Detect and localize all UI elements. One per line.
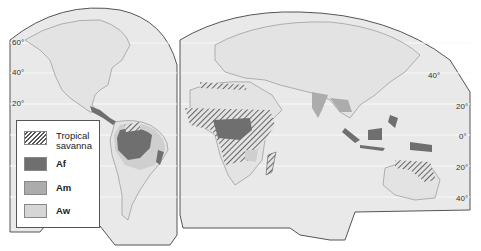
lat-label-60n: 60° — [12, 38, 24, 47]
legend-item-af: Af — [24, 157, 66, 171]
legend: Tropical savanna Af Am Aw — [16, 120, 100, 228]
legend-item-aw: Aw — [24, 204, 70, 218]
legend-item-am: Am — [24, 181, 71, 195]
lat-label-40n: 40° — [12, 68, 24, 77]
am-swatch — [24, 181, 47, 195]
legend-label-af: Af — [56, 159, 66, 169]
lat-label-right-20s: 20° — [456, 163, 468, 172]
savanna-swatch — [24, 131, 47, 145]
lat-label-right-0: 0° — [459, 132, 467, 141]
legend-item-savanna: Tropical savanna — [24, 131, 92, 151]
africa-aw — [245, 150, 258, 162]
lat-label-right-20n: 20° — [456, 102, 468, 111]
legend-label-am: Am — [56, 183, 71, 193]
aw-swatch — [24, 204, 47, 218]
lat-label-right-40s: 40° — [456, 194, 468, 203]
af-swatch — [24, 157, 47, 171]
borneo-af — [368, 128, 382, 140]
legend-label-savanna-2: savanna — [56, 141, 92, 151]
lat-label-20n: 20° — [12, 99, 24, 108]
lat-label-right-40n: 40° — [428, 71, 440, 80]
legend-label-aw: Aw — [56, 206, 70, 216]
